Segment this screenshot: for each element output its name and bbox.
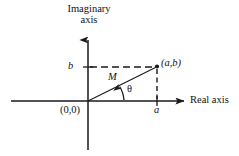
origin-label: (0,0) [60,104,80,115]
point-ab-marker [155,64,159,68]
theta-angle-arc [120,87,124,101]
a-axis-value-label: a [154,104,159,115]
magnitude-vector-line [88,68,156,102]
point-ab-label: (a,b) [161,57,181,68]
theta-angle-label: θ [127,83,132,94]
imaginary-axis-label: Imaginary axis [58,3,120,26]
b-axis-value-label: b [68,60,73,71]
imaginary-axis-label-line1: Imaginary [67,3,110,14]
magnitude-label: M [108,71,117,82]
imaginary-axis-label-line2: axis [58,14,120,25]
real-axis-label: Real axis [190,94,229,105]
